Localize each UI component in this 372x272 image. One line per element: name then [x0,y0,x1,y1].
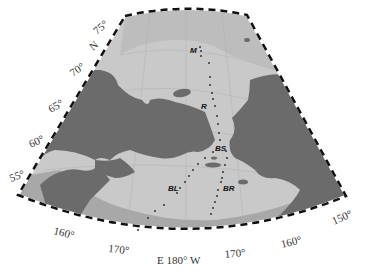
lat-label-n: N [87,38,101,52]
station-label-r: R [201,102,207,111]
lat-label-75: 75° [91,17,111,36]
lon-label-160w: 160° [280,233,303,250]
lon-label-150w: 150° [330,207,354,226]
lon-label-180: E 180° W [157,254,201,266]
station-label-br: BR [223,184,235,193]
station-label-m: M [190,46,197,55]
lat-label-70: 70° [67,60,87,79]
lat-label-55: 55° [8,167,27,184]
lon-label-170w: 170° [224,246,246,260]
station-label-bs: BS [215,144,227,153]
lat-label-65: 65° [46,97,65,115]
map-figure: M R BS BL BR 75° N 70° 65° 60° 55° 160° … [0,0,372,272]
lon-label-160e: 160° [53,224,76,241]
station-label-bl: BL [168,184,179,193]
lon-label-170e: 170° [108,242,130,256]
lat-label-60: 60° [27,132,46,149]
